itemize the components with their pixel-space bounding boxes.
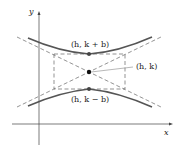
center-label: (h, k) xyxy=(136,62,157,71)
axes xyxy=(12,11,173,145)
hyperbola-diagram: y x (h, k + b) (h, k) (h, k − b) xyxy=(0,0,177,153)
center-point xyxy=(87,70,91,74)
upper-vertex-label: (h, k + b) xyxy=(71,40,109,49)
upper-vertex-point xyxy=(87,52,91,56)
center-leader-line xyxy=(91,67,133,72)
lower-vertex-label: (h, k − b) xyxy=(71,95,109,104)
lower-vertex-point xyxy=(87,87,91,91)
x-axis-label: x xyxy=(164,128,169,137)
y-axis-label: y xyxy=(28,7,34,16)
